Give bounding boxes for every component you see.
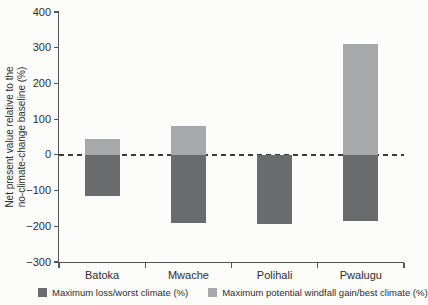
- legend-item-gain: Maximum potential windfall gain/best cli…: [208, 287, 427, 298]
- bar-batoka-loss: [85, 155, 120, 196]
- category-label-polihali: Polihali: [232, 269, 318, 281]
- legend-swatch-loss: [38, 288, 47, 297]
- x-tick-mark: [403, 263, 404, 268]
- category-label-mwache: Mwache: [145, 269, 231, 281]
- y-tick-mark: [54, 83, 59, 84]
- y-axis-title-line1: Net present value relative to the: [4, 12, 16, 262]
- y-tick-mark: [54, 119, 59, 120]
- legend-swatch-gain: [208, 288, 217, 297]
- x-tick-mark: [317, 263, 318, 268]
- y-tick-label: 200: [17, 78, 51, 89]
- y-tick-label: 0: [17, 149, 51, 160]
- legend-item-loss: Maximum loss/worst climate (%): [38, 287, 188, 298]
- bar-polihali-loss: [257, 155, 292, 225]
- y-tick-mark: [54, 11, 59, 12]
- legend-label-loss: Maximum loss/worst climate (%): [52, 287, 188, 298]
- y-tick-label: 300: [17, 42, 51, 53]
- plot-area: 4003002001000−100−200−300BatokaMwachePol…: [58, 12, 404, 263]
- y-tick-label: −300: [17, 257, 51, 268]
- y-tick-label: 100: [17, 114, 51, 125]
- y-tick-label: −100: [17, 185, 51, 196]
- bar-pwalugu-loss: [343, 155, 378, 221]
- category-label-batoka: Batoka: [59, 269, 145, 281]
- bar-mwache-gain: [171, 126, 206, 155]
- x-tick-mark: [58, 263, 59, 268]
- y-tick-mark: [54, 226, 59, 227]
- x-tick-mark: [231, 263, 232, 268]
- legend-label-gain: Maximum potential windfall gain/best cli…: [222, 287, 427, 298]
- y-tick-mark: [54, 47, 59, 48]
- bar-mwache-loss: [171, 155, 206, 223]
- x-tick-mark: [145, 263, 146, 268]
- category-label-pwalugu: Pwalugu: [318, 269, 404, 281]
- bar-pwalugu-gain: [343, 44, 378, 155]
- y-tick-label: 400: [17, 7, 51, 18]
- legend: Maximum loss/worst climate (%) Maximum p…: [38, 287, 428, 298]
- y-tick-label: −200: [17, 221, 51, 232]
- bar-batoka-gain: [85, 139, 120, 155]
- y-tick-mark: [54, 190, 59, 191]
